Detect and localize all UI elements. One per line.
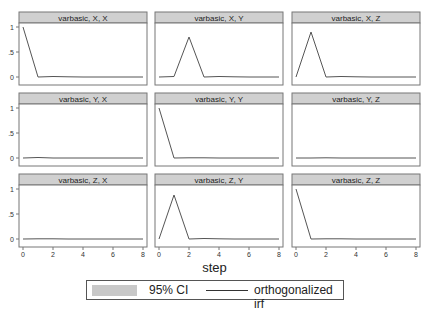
y-tick-label: 1 bbox=[10, 24, 14, 31]
panel: varbasic, X, X0.51 bbox=[8, 12, 147, 85]
ci-swatch-icon bbox=[92, 285, 137, 296]
y-tick-label: 0 bbox=[10, 236, 14, 243]
plot-area bbox=[19, 23, 147, 85]
x-tick-label: 6 bbox=[247, 251, 251, 258]
plot-area bbox=[19, 104, 147, 166]
panel: varbasic, Y, X0.51 bbox=[8, 93, 147, 166]
panel-title: varbasic, Z, X bbox=[59, 176, 109, 185]
y-tick-label: .5 bbox=[8, 49, 14, 56]
y-tick-label: .5 bbox=[8, 211, 14, 218]
x-tick-label: 4 bbox=[217, 251, 221, 258]
x-tick-label: 0 bbox=[157, 251, 161, 258]
y-tick-label: 0 bbox=[10, 155, 14, 162]
legend: 95% CI orthogonalized irf bbox=[86, 280, 344, 300]
x-tick-label: 0 bbox=[21, 251, 25, 258]
y-tick-label: 1 bbox=[10, 186, 14, 193]
panel: varbasic, Z, X0.5102468 bbox=[8, 174, 147, 258]
x-tick-label: 8 bbox=[277, 251, 281, 258]
panel-title: varbasic, X, Z bbox=[332, 14, 381, 23]
x-tick-label: 4 bbox=[354, 251, 358, 258]
panel: varbasic, X, Z bbox=[292, 12, 420, 85]
irf-line bbox=[23, 158, 143, 159]
panel: varbasic, Y, Z bbox=[292, 93, 420, 166]
plot-area bbox=[19, 185, 147, 247]
panel: varbasic, X, Y bbox=[155, 12, 283, 85]
x-tick-label: 2 bbox=[187, 251, 191, 258]
panel: varbasic, Y, Y bbox=[155, 93, 283, 166]
x-tick-label: 2 bbox=[324, 251, 328, 258]
legend-irf-label: orthogonalized irf bbox=[254, 283, 343, 311]
x-tick-label: 0 bbox=[294, 251, 298, 258]
line-swatch-icon bbox=[206, 290, 248, 291]
panel-title: varbasic, X, Y bbox=[194, 14, 244, 23]
panel-title: varbasic, Z, Y bbox=[195, 176, 244, 185]
legend-ci-label: 95% CI bbox=[149, 283, 188, 297]
x-tick-label: 4 bbox=[81, 251, 85, 258]
panel: varbasic, Z, Y02468 bbox=[155, 174, 283, 258]
y-tick-label: 0 bbox=[10, 74, 14, 81]
y-tick-label: .5 bbox=[8, 130, 14, 137]
panel-title: varbasic, X, X bbox=[58, 14, 108, 23]
x-tick-label: 8 bbox=[414, 251, 418, 258]
panel-title: varbasic, Z, Z bbox=[332, 176, 381, 185]
x-tick-label: 2 bbox=[51, 251, 55, 258]
panel-title: varbasic, Y, Y bbox=[195, 95, 244, 104]
panel-title: varbasic, Y, Z bbox=[332, 95, 380, 104]
x-axis-label: step bbox=[0, 260, 429, 275]
x-tick-label: 8 bbox=[141, 251, 145, 258]
y-tick-label: 1 bbox=[10, 105, 14, 112]
x-tick-label: 6 bbox=[111, 251, 115, 258]
plot-area bbox=[155, 104, 283, 166]
plot-area bbox=[292, 104, 420, 166]
x-tick-label: 6 bbox=[384, 251, 388, 258]
panel: varbasic, Z, Z02468 bbox=[292, 174, 420, 258]
panel-title: varbasic, Y, X bbox=[59, 95, 108, 104]
plot-area bbox=[292, 185, 420, 247]
